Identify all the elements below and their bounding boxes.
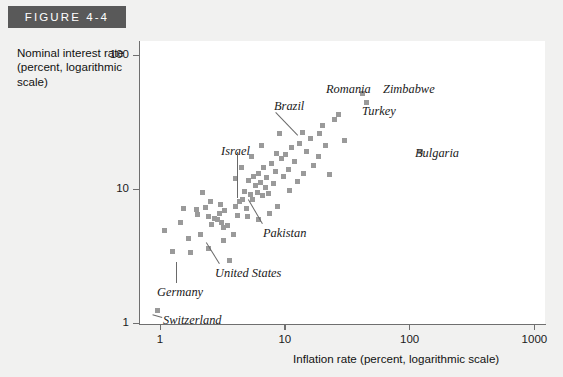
data-point-marker bbox=[206, 214, 211, 219]
annotation-label-bulgaria: Bulgaria bbox=[415, 146, 459, 161]
data-point-marker bbox=[198, 232, 203, 237]
annotation-label-united-states: United States bbox=[215, 266, 281, 281]
data-point-marker bbox=[218, 202, 223, 207]
data-point-marker bbox=[263, 185, 268, 190]
figure-number-label: FIGURE 4-4 bbox=[25, 11, 109, 23]
data-point-marker bbox=[155, 308, 160, 313]
data-point-marker bbox=[231, 232, 236, 237]
data-point-marker bbox=[200, 190, 205, 195]
y-tick-mark bbox=[133, 55, 139, 56]
x-tick-mark bbox=[534, 324, 535, 330]
data-point-marker bbox=[304, 149, 309, 154]
data-point-marker bbox=[194, 207, 199, 212]
annotation-leader-line bbox=[176, 262, 177, 283]
data-point-marker bbox=[301, 171, 306, 176]
data-point-marker bbox=[246, 178, 251, 183]
data-point-marker bbox=[222, 208, 227, 213]
data-point-marker bbox=[235, 213, 240, 218]
data-point-marker bbox=[186, 236, 191, 241]
annotation-label-switzerland: Switzerland bbox=[163, 313, 222, 328]
data-point-marker bbox=[245, 214, 250, 219]
data-point-marker bbox=[300, 130, 305, 135]
annotation-label-germany: Germany bbox=[157, 285, 203, 300]
x-axis-title: Inflation rate (percent, logarithmic sca… bbox=[293, 352, 499, 365]
data-point-marker bbox=[295, 179, 300, 184]
data-point-marker bbox=[286, 167, 291, 172]
y-axis-line bbox=[139, 41, 140, 325]
data-point-marker bbox=[274, 151, 279, 156]
data-point-marker bbox=[271, 181, 276, 186]
data-point-marker bbox=[244, 206, 249, 211]
data-point-marker bbox=[277, 131, 282, 136]
x-tick-label: 1 bbox=[130, 333, 190, 345]
data-point-marker bbox=[203, 205, 208, 210]
data-point-marker bbox=[275, 204, 280, 209]
y-tick-label: 10 bbox=[95, 182, 129, 194]
annotation-leader-line bbox=[237, 152, 238, 198]
data-point-marker bbox=[283, 152, 288, 157]
data-point-marker bbox=[256, 171, 261, 176]
data-point-marker bbox=[332, 117, 337, 122]
data-point-marker bbox=[267, 211, 272, 216]
data-point-marker bbox=[178, 220, 183, 225]
data-point-marker bbox=[320, 123, 325, 128]
data-point-marker bbox=[188, 250, 193, 255]
x-tick-label: 100 bbox=[380, 333, 440, 345]
y-tick-label: 100 bbox=[95, 48, 129, 60]
data-point-marker bbox=[259, 143, 264, 148]
data-point-marker bbox=[227, 258, 232, 263]
data-point-marker bbox=[308, 136, 313, 141]
data-point-marker bbox=[240, 197, 245, 202]
data-point-marker bbox=[181, 206, 186, 211]
x-tick-label: 10 bbox=[255, 333, 315, 345]
data-point-marker bbox=[195, 212, 200, 217]
data-point-marker bbox=[269, 161, 274, 166]
annotation-label-turkey: Turkey bbox=[362, 104, 396, 119]
y-tick-mark bbox=[133, 189, 139, 190]
data-point-marker bbox=[225, 223, 230, 228]
data-point-marker bbox=[317, 131, 322, 136]
data-point-marker bbox=[242, 189, 247, 194]
data-point-marker bbox=[208, 199, 213, 204]
x-tick-mark bbox=[409, 324, 410, 330]
data-point-marker bbox=[273, 169, 278, 174]
annotation-label-romania: Romania bbox=[326, 82, 371, 97]
data-point-marker bbox=[292, 159, 297, 164]
data-point-marker bbox=[261, 165, 266, 170]
data-point-marker bbox=[260, 193, 265, 198]
data-point-marker bbox=[297, 141, 302, 146]
data-point-marker bbox=[233, 204, 238, 209]
data-point-marker bbox=[253, 183, 258, 188]
x-tick-label: 1000 bbox=[504, 333, 563, 345]
annotation-label-israel: Israel bbox=[221, 144, 250, 159]
data-point-marker bbox=[327, 172, 332, 177]
annotation-label-brazil: Brazil bbox=[274, 99, 304, 114]
data-point-marker bbox=[281, 174, 286, 179]
data-point-marker bbox=[266, 191, 271, 196]
x-tick-mark bbox=[160, 324, 161, 330]
data-point-marker bbox=[250, 197, 255, 202]
data-point-marker bbox=[311, 163, 316, 168]
data-point-marker bbox=[336, 112, 341, 117]
data-point-marker bbox=[209, 222, 214, 227]
data-point-marker bbox=[342, 138, 347, 143]
y-tick-mark bbox=[133, 323, 139, 324]
data-point-marker bbox=[323, 143, 328, 148]
annotation-label-zimbabwe: Zimbabwe bbox=[383, 82, 435, 97]
data-point-marker bbox=[170, 249, 175, 254]
data-point-marker bbox=[221, 238, 226, 243]
data-point-marker bbox=[249, 154, 254, 159]
data-point-marker bbox=[251, 174, 256, 179]
figure-container: FIGURE 4-4 Nominal interest rate (percen… bbox=[0, 0, 563, 377]
x-tick-mark bbox=[284, 324, 285, 330]
data-point-marker bbox=[239, 165, 244, 170]
y-tick-label: 1 bbox=[95, 316, 129, 328]
data-point-marker bbox=[316, 154, 321, 159]
figure-number-banner: FIGURE 4-4 bbox=[8, 6, 126, 28]
data-point-marker bbox=[289, 145, 294, 150]
data-point-marker bbox=[162, 228, 167, 233]
annotation-label-pakistan: Pakistan bbox=[263, 226, 306, 241]
data-point-marker bbox=[264, 175, 269, 180]
data-point-marker bbox=[287, 188, 292, 193]
